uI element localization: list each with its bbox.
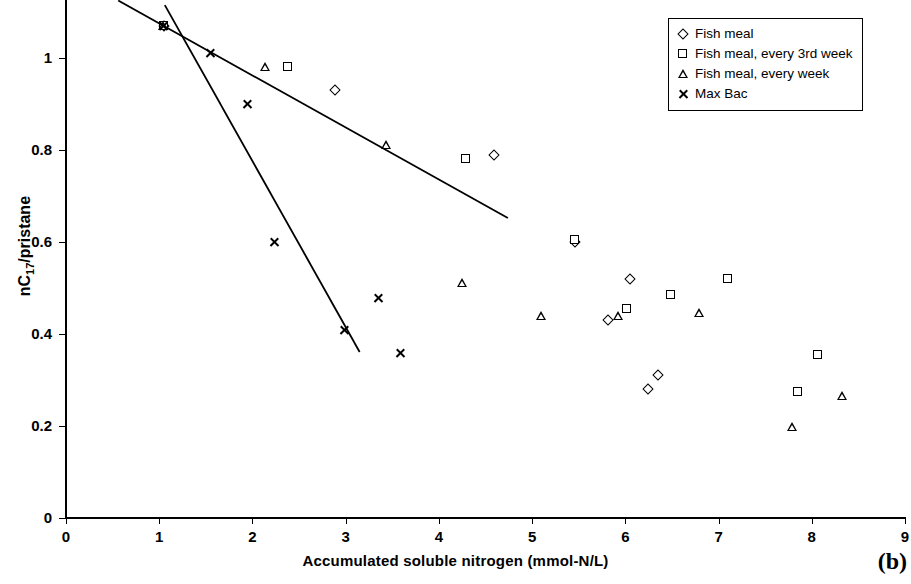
x-tick-label: 1 — [144, 528, 174, 546]
data-point-triangle — [694, 308, 704, 317]
data-point-square — [666, 290, 675, 299]
data-point-cross — [205, 48, 216, 59]
triangle-marker — [678, 69, 688, 78]
data-point-cross — [373, 293, 384, 304]
triangle-inner — [789, 425, 795, 430]
x-tick — [66, 518, 67, 524]
triangle-inner — [680, 72, 686, 77]
data-point-triangle — [837, 391, 847, 400]
data-point-square — [283, 62, 292, 71]
data-point-triangle — [787, 422, 797, 431]
cross-marker — [678, 89, 689, 100]
data-point-square — [622, 304, 631, 313]
legend-label: Fish meal — [695, 27, 754, 41]
y-tick-label: 1 — [0, 51, 52, 65]
y-tick — [59, 426, 66, 427]
x-tick — [625, 518, 626, 524]
legend-diamond-icon — [676, 27, 690, 41]
data-point-triangle — [457, 278, 467, 287]
legend-cross-icon — [676, 87, 690, 101]
data-point-triangle — [260, 62, 270, 71]
legend-label: Fish meal, every week — [695, 67, 829, 81]
chart-figure: 0123456789 00.20.40.60.81 Accumulated so… — [0, 0, 911, 584]
data-point-triangle — [536, 311, 546, 320]
x-tick — [346, 518, 347, 524]
panel-label: (b) — [878, 548, 907, 575]
square-marker — [678, 49, 687, 58]
triangle-inner — [459, 281, 465, 286]
y-axis-title-rest: /pristane — [16, 196, 33, 263]
triangle-inner — [615, 314, 621, 319]
lower-regression — [165, 5, 360, 352]
y-tick-label: 0.2 — [0, 419, 52, 433]
y-axis-title: nC17/pristane — [16, 126, 36, 366]
data-point-diamond — [642, 384, 653, 395]
data-point-cross — [158, 20, 169, 31]
legend-row: Fish meal, every 3rd week — [676, 44, 853, 64]
legend-row: Fish meal, every week — [676, 64, 853, 84]
y-tick — [59, 58, 66, 59]
x-tick-label: 9 — [890, 528, 911, 546]
data-point-diamond — [624, 273, 635, 284]
data-point-square — [461, 154, 470, 163]
y-axis-line — [65, 0, 67, 519]
triangle-inner — [383, 143, 389, 148]
x-tick-label: 4 — [424, 528, 454, 546]
triangle-inner — [262, 65, 268, 70]
x-tick-label: 0 — [51, 528, 81, 546]
x-tick-label: 6 — [610, 528, 640, 546]
data-point-square — [793, 387, 802, 396]
x-tick — [159, 518, 160, 524]
legend-row: Fish meal — [676, 24, 853, 44]
diamond-marker — [677, 28, 688, 39]
y-tick — [59, 518, 66, 519]
legend-square-icon — [676, 47, 690, 61]
data-point-triangle — [381, 140, 391, 149]
y-axis-title-base: nC — [16, 275, 33, 296]
upper-regression — [118, 1, 508, 219]
legend-triangle-icon — [676, 67, 690, 81]
x-tick — [905, 518, 906, 524]
y-axis-title-subscript: 17 — [24, 263, 36, 275]
triangle-inner — [839, 394, 845, 399]
x-axis-title: Accumulated soluble nitrogen (mmol-N/L) — [0, 552, 911, 569]
legend: Fish mealFish meal, every 3rd weekFish m… — [668, 18, 863, 111]
y-tick — [59, 150, 66, 151]
data-point-square — [570, 235, 579, 244]
legend-label: Fish meal, every 3rd week — [695, 47, 853, 61]
triangle-inner — [538, 314, 544, 319]
x-tick — [719, 518, 720, 524]
y-tick — [59, 242, 66, 243]
y-tick-label: 0 — [0, 511, 52, 525]
legend-row: Max Bac — [676, 84, 853, 104]
data-point-cross — [242, 99, 253, 110]
x-tick-label: 5 — [517, 528, 547, 546]
data-point-square — [723, 274, 732, 283]
data-point-triangle — [613, 311, 623, 320]
x-tick-label: 7 — [704, 528, 734, 546]
x-tick — [439, 518, 440, 524]
legend-label: Max Bac — [695, 87, 748, 101]
y-tick — [59, 334, 66, 335]
data-point-cross — [339, 325, 350, 336]
x-tick-label: 8 — [797, 528, 827, 546]
x-tick-label: 3 — [331, 528, 361, 546]
x-tick — [252, 518, 253, 524]
x-tick — [532, 518, 533, 524]
triangle-inner — [696, 311, 702, 316]
x-tick — [812, 518, 813, 524]
x-tick-label: 2 — [237, 528, 267, 546]
x-axis-line — [66, 517, 906, 519]
data-point-diamond — [652, 370, 663, 381]
data-point-diamond — [330, 85, 341, 96]
data-point-diamond — [602, 315, 613, 326]
data-point-square — [813, 350, 822, 359]
data-point-diamond — [488, 149, 499, 160]
data-point-cross — [269, 237, 280, 248]
data-point-cross — [395, 348, 406, 359]
